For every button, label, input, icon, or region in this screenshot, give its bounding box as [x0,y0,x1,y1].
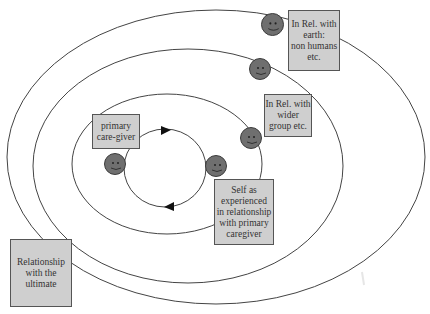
label-ultimate: Relationship with the ultimate [10,239,72,307]
smiley-face-icon [104,153,126,175]
second-ring [33,49,343,283]
label-line: with primary [219,218,268,229]
arrow-left-icon [164,202,174,211]
label-earth: In Rel. with earth: non humans etc. [288,10,340,71]
smiley-face-icon [205,155,227,177]
label-line: In Rel. with [291,19,336,30]
label-line: Self as [231,185,257,196]
label-line: non humans [291,41,337,52]
label-line: earth: [303,30,325,41]
label-line: with the [26,268,57,279]
smiley-face-icon [240,127,262,149]
label-line: ultimate [25,279,56,290]
label-line: caregiver [226,229,261,240]
label-line: care-giver [97,132,136,143]
arrow-right-icon [161,126,171,135]
label-line: In Rel. with [265,99,310,110]
label-line: etc. [307,52,320,63]
label-line: in relationship [217,207,272,218]
label-line: Relationship [17,257,65,268]
label-wider-group: In Rel. with wider group etc. [264,94,312,137]
label-line: primary [101,121,131,132]
label-primary-caregiver: primary care-giver [92,114,140,149]
smiley-face-icon [249,58,271,80]
label-line: group etc. [269,121,307,132]
relationship-diagram: In Rel. with earth: non humans etc. In R… [0,0,430,314]
faint-mark [362,272,364,285]
label-line: experienced [221,196,267,207]
label-line: wider [277,110,299,121]
smiley-face-icon [261,13,284,36]
label-self: Self as experienced in relationship with… [214,179,274,245]
